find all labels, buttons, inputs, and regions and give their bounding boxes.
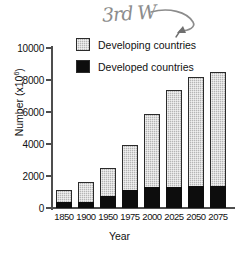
bar-1850 <box>56 190 72 208</box>
x-tick-label-1900: 1900 <box>76 211 95 222</box>
legend-label-developed: Developed countries <box>98 61 194 73</box>
bar-segment-developed <box>78 202 94 208</box>
y-tick-label-4000: 4000 <box>23 139 44 150</box>
y-tick-label-6000: 6000 <box>23 107 44 118</box>
bar-1975 <box>122 145 138 208</box>
legend-swatch-developing-icon <box>76 38 90 51</box>
x-tick-label-2050: 2050 <box>186 211 205 222</box>
y-tick-label-0: 0 <box>39 203 44 214</box>
x-tick-label-2000: 2000 <box>142 211 161 222</box>
legend-label-developing: Developing countries <box>98 39 196 51</box>
bar-1900 <box>78 182 94 208</box>
bar-segment-developed <box>56 202 72 208</box>
x-axis-label: Year <box>0 230 239 242</box>
bar-segment-developed <box>188 186 204 208</box>
legend-item-developing: Developing countries <box>76 36 196 53</box>
legend-swatch-developed-icon <box>76 60 90 73</box>
x-tick-label-1975: 1975 <box>120 211 139 222</box>
bar-2075 <box>210 72 226 208</box>
y-axis-label-close: ) <box>13 68 25 72</box>
bar-segment-developed <box>100 196 116 208</box>
bar-2050 <box>188 77 204 208</box>
chart-figure: Number (x106) 0 2000 4000 6000 8000 1000… <box>0 0 239 256</box>
handwritten-annotation-text: 3rd W <box>101 0 156 26</box>
y-tick-label-10000: 10000 <box>17 43 44 54</box>
bar-2000 <box>144 114 160 208</box>
bar-segment-developed <box>166 187 182 208</box>
bar-2025 <box>166 90 182 208</box>
bar-segment-developed <box>122 190 138 208</box>
x-tick-label-2075: 2075 <box>208 211 227 222</box>
y-tick-label-8000: 8000 <box>23 75 44 86</box>
y-axis-label-exponent: 6 <box>13 72 20 76</box>
legend-item-developed: Developed countries <box>76 58 196 75</box>
bar-segment-developed <box>210 186 226 208</box>
y-tick-label-2000: 2000 <box>23 171 44 182</box>
bar-1950 <box>100 168 116 208</box>
x-tick-label-1950: 1950 <box>98 211 117 222</box>
bar-segment-developed <box>144 187 160 208</box>
x-tick-label-2025: 2025 <box>164 211 183 222</box>
x-tick-label-1850: 1850 <box>54 211 73 222</box>
chart-legend: Developing countries Developed countries <box>76 36 196 80</box>
